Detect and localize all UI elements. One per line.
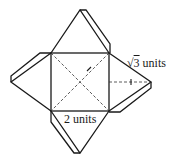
top-triangle-face bbox=[51, 10, 110, 53]
left-triangle-face bbox=[11, 53, 51, 111]
unit-text: units bbox=[140, 56, 166, 70]
slant-height-label: √3 units bbox=[127, 57, 166, 69]
radical-sign: √ bbox=[127, 56, 134, 70]
pyramid-net-diagram bbox=[0, 0, 172, 163]
base-side-label: 2 units bbox=[64, 113, 96, 125]
half-diagonal-tick-mark bbox=[87, 67, 91, 71]
